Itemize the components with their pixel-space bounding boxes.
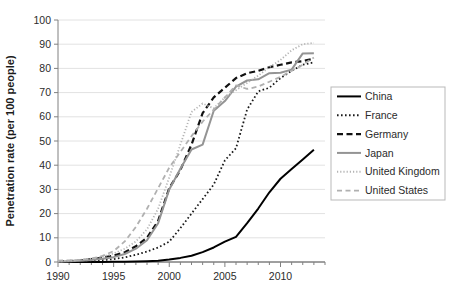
legend-label-united-states: United States bbox=[365, 184, 428, 196]
x-tick-label: 2005 bbox=[213, 270, 237, 282]
y-tick-label: 30 bbox=[39, 183, 51, 195]
y-tick-label: 90 bbox=[39, 38, 51, 50]
y-tick-label: 70 bbox=[39, 86, 51, 98]
x-tick-label: 1995 bbox=[102, 270, 126, 282]
x-tick-label: 1990 bbox=[46, 270, 70, 282]
x-tick-label: 2000 bbox=[158, 270, 182, 282]
legend-label-japan: Japan bbox=[365, 147, 394, 159]
y-tick-label: 10 bbox=[39, 231, 51, 243]
y-tick-label: 0 bbox=[45, 256, 51, 268]
y-tick-label: 80 bbox=[39, 62, 51, 74]
y-tick-label: 20 bbox=[39, 207, 51, 219]
x-tick-label: 2010 bbox=[269, 270, 293, 282]
y-tick-label: 40 bbox=[39, 159, 51, 171]
legend-label-france: France bbox=[365, 109, 398, 121]
chart-container: 0102030405060708090100 19901995200020052… bbox=[0, 0, 457, 293]
legend-label-united-kingdom: United Kingdom bbox=[365, 165, 440, 177]
y-tick-label: 50 bbox=[39, 135, 51, 147]
y-tick-label: 60 bbox=[39, 110, 51, 122]
legend-label-china: China bbox=[365, 90, 393, 102]
legend-box bbox=[331, 87, 445, 200]
chart-legend: ChinaFranceGermanyJapanUnited KingdomUni… bbox=[331, 87, 445, 200]
line-chart: 0102030405060708090100 19901995200020052… bbox=[0, 0, 457, 293]
legend-label-germany: Germany bbox=[365, 128, 409, 140]
y-axis-title: Penetration rate (per 100 people) bbox=[4, 55, 16, 226]
y-tick-label: 100 bbox=[33, 14, 51, 26]
